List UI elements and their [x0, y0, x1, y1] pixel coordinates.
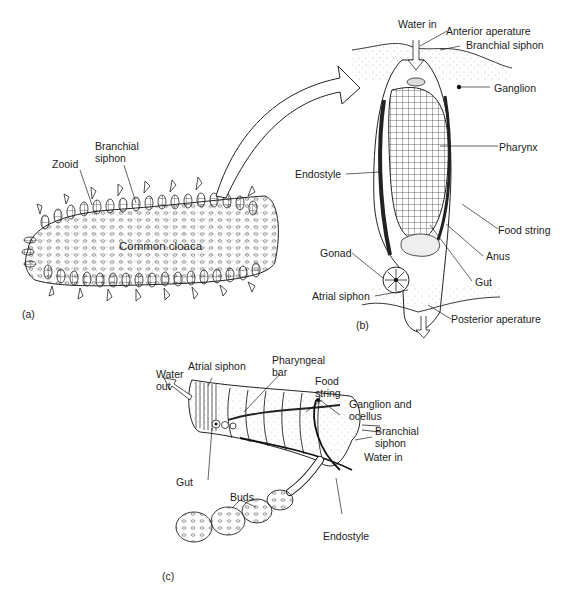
- label-c-gut: Gut: [176, 476, 193, 488]
- label-b-anus: Anus: [486, 250, 510, 262]
- label-b-pharynx: Pharynx: [499, 141, 538, 153]
- label-c-atrial-siphon: Atrial siphon: [188, 360, 246, 372]
- label-a-branchial-siphon: Branchial siphon: [95, 140, 155, 164]
- label-a-common-cloaca: Common cloaca: [119, 240, 202, 252]
- label-c-buds: Buds: [230, 491, 254, 503]
- label-b-water-in: Water in: [398, 18, 437, 30]
- label-c-water-in: Water in: [364, 451, 403, 463]
- label-c-ganglion-and-ocellus: Ganglion and ocellus: [349, 398, 415, 422]
- colony-illustration: [22, 165, 278, 301]
- label-b-gonad: Gonad: [320, 247, 352, 259]
- label-b-anterior-aperature: Anterior aperature: [446, 25, 531, 37]
- label-c-endostyle: Endostyle: [323, 530, 369, 542]
- panel-tag-b: (b): [356, 319, 369, 331]
- label-b-atrial-siphon: Atrial siphon: [312, 290, 370, 302]
- thaliacean-illustration: [164, 374, 380, 542]
- zooid-section-illustration: [346, 31, 512, 338]
- label-b-endostyle: Endostyle: [295, 168, 341, 180]
- label-b-posterior-aperature: Posterior aperature: [451, 313, 541, 325]
- label-c-water-out: Water out: [156, 368, 192, 392]
- label-c-branchial-siphon: Branchial siphon: [375, 425, 425, 449]
- label-b-gut: Gut: [475, 276, 492, 288]
- label-b-ganglion: Ganglion: [494, 82, 536, 94]
- panel-tag-c: (c): [162, 570, 174, 582]
- label-b-branchial-siphon: Branchial siphon: [466, 39, 544, 51]
- diagram-artwork: [0, 0, 567, 597]
- label-a-zooid: Zooid: [52, 158, 78, 170]
- panel-tag-a: (a): [22, 308, 35, 320]
- label-b-food-string: Food string: [498, 224, 551, 236]
- label-c-food-string: Food string: [315, 375, 355, 399]
